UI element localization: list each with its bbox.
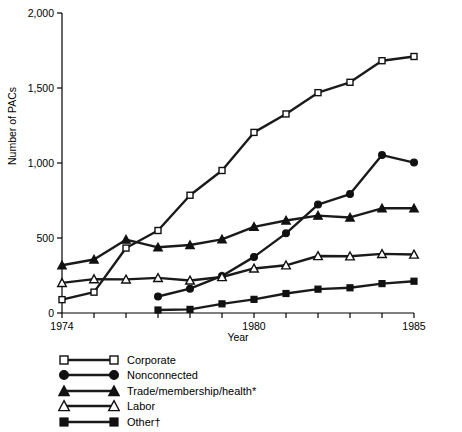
data-point-marker [110, 371, 119, 380]
data-point-marker [315, 90, 321, 96]
data-point-marker [379, 281, 385, 287]
legend-item-labor[interactable]: Labor [58, 399, 358, 415]
data-point-marker [60, 371, 69, 380]
y-tick-label: 500 [6, 233, 54, 243]
data-point-marker [155, 228, 161, 234]
data-point-marker [187, 306, 193, 312]
data-point-marker [411, 54, 417, 60]
x-tick-label: 1980 [234, 321, 274, 331]
legend-item-trade-membership-health[interactable]: Trade/membership/health* [58, 383, 358, 399]
data-point-marker [91, 289, 97, 295]
data-point-marker [219, 168, 225, 174]
data-point-marker [110, 356, 118, 364]
legend-label: Corporate [127, 354, 176, 366]
data-point-marker [60, 418, 68, 426]
legend-marker-open-square-icon [58, 353, 120, 367]
data-point-marker [155, 307, 161, 313]
data-point-marker [283, 230, 290, 237]
data-point-marker [59, 297, 65, 303]
x-tick-label: 1985 [394, 321, 434, 331]
series-3 [58, 204, 419, 269]
chart-legend: CorporateNonconnectedTrade/membership/he… [58, 352, 358, 430]
legend-marker-open-triangle-icon [58, 399, 120, 413]
series-2 [155, 152, 418, 300]
data-point-marker [219, 301, 225, 307]
data-point-marker [315, 286, 321, 292]
data-point-marker [347, 191, 354, 198]
data-point-marker [60, 356, 68, 364]
data-point-marker [251, 129, 257, 135]
legend-item-nonconnected[interactable]: Nonconnected [58, 368, 358, 384]
data-point-marker [110, 418, 118, 426]
legend-marker-filled-square-icon [58, 415, 120, 429]
data-point-marker [411, 159, 418, 166]
legend-label: Trade/membership/health* [127, 385, 256, 397]
data-point-marker [283, 111, 289, 117]
data-point-marker [315, 201, 322, 208]
data-point-marker [251, 254, 258, 261]
y-tick-label: 0 [6, 308, 54, 318]
x-axis-title: Year [62, 331, 414, 343]
legend-label: Other† [127, 416, 161, 428]
data-point-marker [187, 192, 193, 198]
legend-item-other[interactable]: Other† [58, 414, 358, 430]
data-point-marker [411, 278, 417, 284]
legend-label: Labor [127, 400, 155, 412]
data-point-marker [187, 285, 194, 292]
legend-item-corporate[interactable]: Corporate [58, 352, 358, 368]
data-point-marker [379, 58, 385, 64]
data-point-marker [347, 79, 353, 85]
legend-marker-filled-circle-icon [58, 368, 120, 382]
data-point-marker [379, 152, 386, 159]
data-point-marker [283, 291, 289, 297]
legend-marker-filled-triangle-icon [58, 384, 120, 398]
legend-label: Nonconnected [127, 369, 198, 381]
x-tick-label: 1974 [42, 321, 82, 331]
y-tick-label: 2,000 [6, 8, 54, 18]
data-series [58, 54, 419, 314]
y-axis-title: Number of PACs [6, 66, 18, 186]
data-point-marker [251, 296, 257, 302]
data-point-marker [347, 285, 353, 291]
data-point-marker [123, 245, 129, 251]
pac-growth-chart: 2,0001,5001,0005000 197419801985 Number … [0, 0, 462, 432]
data-point-marker [155, 293, 162, 300]
